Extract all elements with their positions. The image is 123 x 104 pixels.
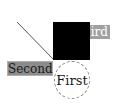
first-circle: First (54, 61, 90, 99)
black-square (53, 22, 90, 60)
second-label: Second (7, 61, 53, 76)
first-label: First (56, 73, 87, 88)
